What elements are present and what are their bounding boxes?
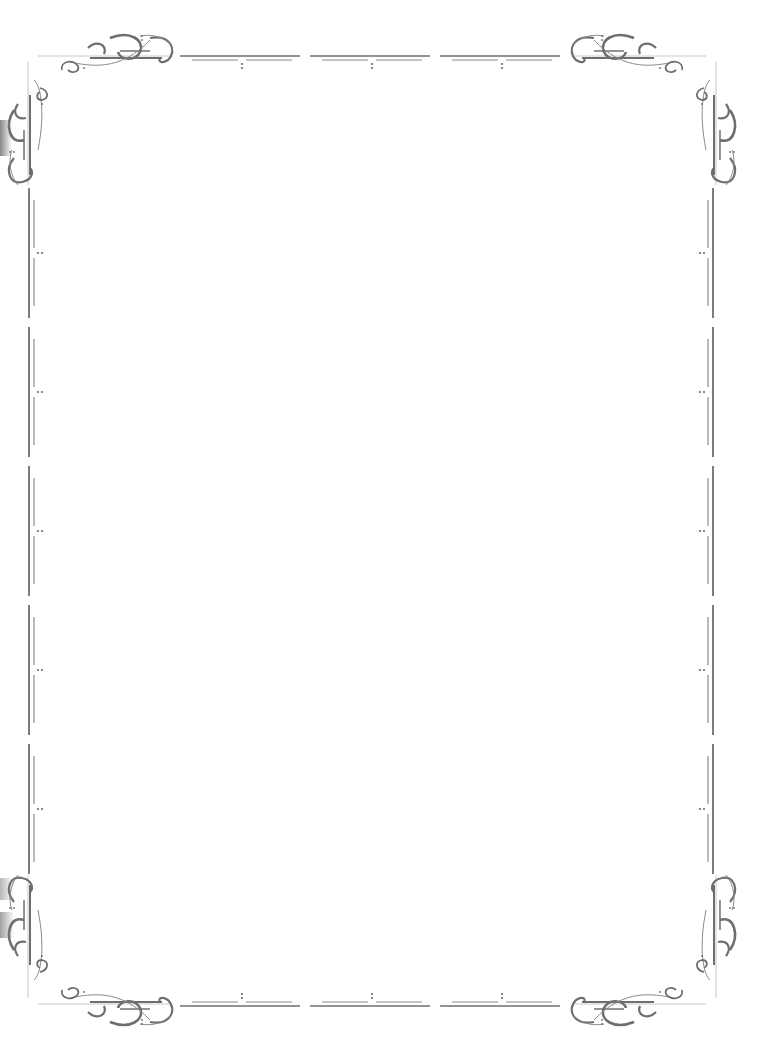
bordered-page xyxy=(0,0,772,1060)
bottom-rule xyxy=(180,993,560,1006)
page-content-area xyxy=(60,80,710,980)
top-rule xyxy=(180,56,560,69)
scan-smudge xyxy=(0,912,14,938)
scan-smudge xyxy=(0,878,14,900)
left-rule xyxy=(29,188,43,874)
scan-smudge xyxy=(0,120,12,156)
